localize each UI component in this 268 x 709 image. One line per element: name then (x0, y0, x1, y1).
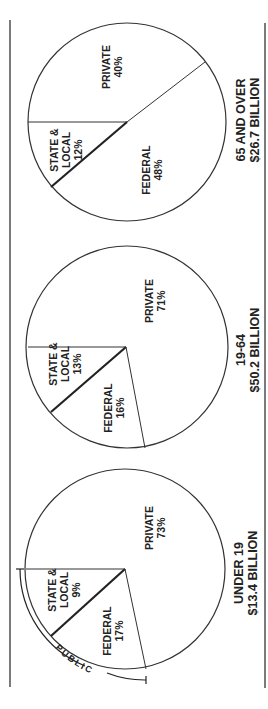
svg-text:FEDERAL: FEDERAL (102, 383, 114, 433)
svg-text:40%: 40% (112, 56, 124, 78)
svg-text:65 AND OVER: 65 AND OVER (234, 79, 248, 162)
pie-65-and-over: STATE & LOCAL 12% FEDERAL 48% PRIVATE 40… (28, 23, 262, 221)
svg-text:LOCAL: LOCAL (60, 131, 72, 168)
pie-19-64: STATE & LOCAL 13% FEDERAL 16% PRIVATE 71… (26, 246, 262, 448)
svg-text:$50.2 BILLION: $50.2 BILLION (248, 308, 262, 393)
svg-text:48%: 48% (152, 159, 164, 181)
svg-text:LOCAL: LOCAL (59, 345, 71, 382)
svg-text:PRIVATE: PRIVATE (143, 506, 155, 550)
svg-text:UNDER 19: UNDER 19 (232, 542, 246, 604)
pie-caption: 19-64 $50.2 BILLION (234, 308, 262, 393)
svg-text:LOCAL: LOCAL (58, 571, 70, 608)
pie-caption: 65 AND OVER $26.7 BILLION (234, 78, 262, 163)
svg-text:19-64: 19-64 (234, 334, 248, 366)
svg-text:$13.4 BILLION: $13.4 BILLION (246, 531, 260, 616)
svg-text:STATE &: STATE & (48, 128, 60, 172)
svg-text:$26.7 BILLION: $26.7 BILLION (248, 78, 262, 163)
svg-text:73%: 73% (155, 517, 167, 539)
svg-text:71%: 71% (155, 290, 167, 312)
pie-caption: UNDER 19 $13.4 BILLION (232, 531, 260, 616)
svg-text:16%: 16% (114, 397, 126, 419)
pie-under-19: STATE & LOCAL 9% FEDERAL 17% PRIVATE 73%… (16, 469, 260, 684)
svg-text:STATE &: STATE & (47, 342, 59, 386)
svg-text:PRIVATE: PRIVATE (143, 279, 155, 323)
svg-text:PRIVATE: PRIVATE (100, 45, 112, 89)
svg-text:FEDERAL: FEDERAL (101, 606, 113, 656)
svg-text:13%: 13% (71, 353, 83, 375)
svg-text:FEDERAL: FEDERAL (140, 145, 152, 195)
pie-chart-figure: STATE & LOCAL 12% FEDERAL 48% PRIVATE 40… (0, 0, 268, 709)
svg-text:STATE &: STATE & (46, 568, 58, 612)
svg-text:17%: 17% (113, 620, 125, 642)
svg-text:9%: 9% (70, 582, 82, 598)
svg-text:12%: 12% (72, 139, 84, 161)
